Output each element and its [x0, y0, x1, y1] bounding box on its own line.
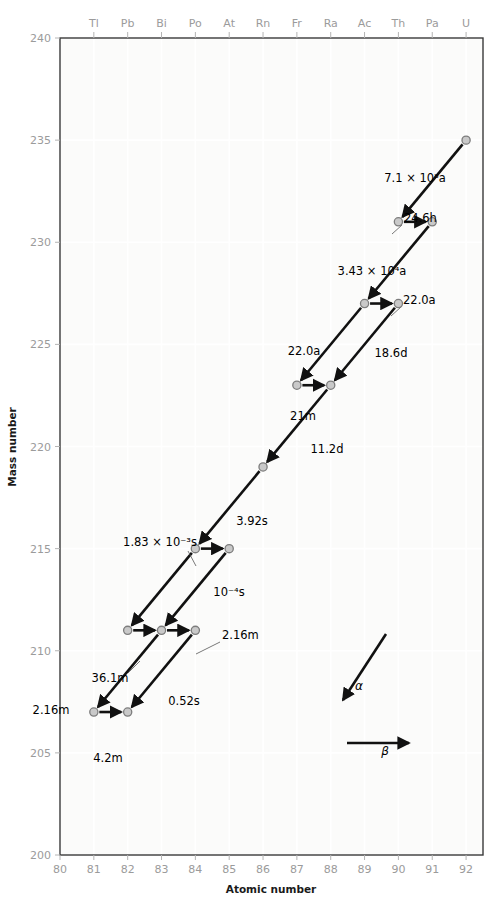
- y-axis-title: Mass number: [6, 406, 18, 486]
- x-axis-title: Atomic number: [226, 883, 317, 895]
- nuclide-marker: [394, 299, 402, 307]
- element-symbol-label: U: [462, 17, 470, 30]
- nuclide-marker: [360, 299, 368, 307]
- x-tick-label: 80: [53, 863, 67, 876]
- decay-half-life-label: 4.2m: [93, 751, 123, 765]
- x-tick-label: 82: [121, 863, 135, 876]
- decay-half-life-label: 18.6d: [375, 346, 408, 360]
- nuclide-marker: [394, 218, 402, 226]
- y-tick-label: 225: [30, 338, 51, 351]
- decay-half-life-label: 1.83 × 10⁻³s: [123, 535, 197, 549]
- element-symbol-label: At: [223, 17, 235, 30]
- decay-chain-chart: 80818283848586878889909192 2002052102152…: [0, 0, 494, 918]
- nuclide-marker: [225, 545, 233, 553]
- decay-half-life-label: 2.16m: [222, 628, 259, 642]
- y-tick-label: 235: [30, 134, 51, 147]
- nuclide-marker: [259, 463, 267, 471]
- element-symbol-label: Th: [391, 17, 406, 30]
- nuclide-marker: [124, 626, 132, 634]
- decay-half-life-label: 24.6h: [404, 211, 437, 225]
- x-tick-label: 86: [256, 863, 270, 876]
- decay-half-life-label: 22.0a: [403, 293, 436, 307]
- element-symbol-label: Po: [189, 17, 202, 30]
- x-tick-label: 90: [391, 863, 405, 876]
- element-symbol-label: Pa: [426, 17, 439, 30]
- y-tick-label: 240: [30, 32, 51, 45]
- y-tick-label: 200: [30, 849, 51, 862]
- y-tick-label: 230: [30, 236, 51, 249]
- x-tick-label: 92: [459, 863, 473, 876]
- nuclide-marker: [462, 136, 470, 144]
- decay-half-life-label: 36.1m: [92, 671, 129, 685]
- nuclide-marker: [90, 708, 98, 716]
- x-axis-ticks: 80818283848586878889909192: [53, 855, 473, 876]
- decay-half-life-label: 2.16m: [33, 703, 70, 717]
- decay-half-life-label: 7.1 × 10⁸a: [384, 171, 446, 185]
- decay-half-life-label: 11.2d: [311, 442, 344, 456]
- x-tick-label: 91: [425, 863, 439, 876]
- x-tick-label: 85: [222, 863, 236, 876]
- y-tick-label: 205: [30, 747, 51, 760]
- nuclide-marker: [157, 626, 165, 634]
- x-tick-label: 89: [358, 863, 372, 876]
- legend-alpha-label: α: [355, 679, 363, 693]
- decay-half-life-label: 21m: [290, 409, 316, 423]
- element-symbol-label: Ra: [324, 17, 338, 30]
- element-symbol-label: Fr: [292, 17, 303, 30]
- element-symbol-label: Pb: [121, 17, 135, 30]
- element-symbol-label: Ac: [358, 17, 371, 30]
- nuclide-marker: [191, 626, 199, 634]
- decay-half-life-label: 10⁻⁴s: [213, 585, 244, 599]
- y-tick-label: 210: [30, 645, 51, 658]
- y-tick-label: 215: [30, 543, 51, 556]
- decay-half-life-label: 0.52s: [168, 694, 200, 708]
- decay-chain-plot: 80818283848586878889909192 2002052102152…: [0, 0, 494, 918]
- x-tick-label: 83: [155, 863, 169, 876]
- element-symbol-label: Rn: [256, 17, 271, 30]
- x-tick-label: 87: [290, 863, 304, 876]
- y-axis-ticks: 200205210215220225230235240: [30, 32, 60, 862]
- decay-half-life-label: 3.92s: [236, 514, 268, 528]
- element-symbol-label: Tl: [88, 17, 99, 30]
- x-tick-label: 81: [87, 863, 101, 876]
- decay-half-life-label: 22.0a: [288, 344, 321, 358]
- decay-half-life-label: 3.43 × 10⁴a: [338, 264, 407, 278]
- element-symbol-axis: TlPbBiPoAtRnFrRaAcThPaU: [88, 17, 470, 38]
- y-tick-label: 220: [30, 441, 51, 454]
- x-tick-label: 84: [188, 863, 202, 876]
- element-symbol-label: Bi: [156, 17, 167, 30]
- x-tick-label: 88: [324, 863, 338, 876]
- nuclide-marker: [327, 381, 335, 389]
- nuclide-marker: [124, 708, 132, 716]
- legend-beta-label: β: [380, 744, 389, 758]
- nuclide-marker: [293, 381, 301, 389]
